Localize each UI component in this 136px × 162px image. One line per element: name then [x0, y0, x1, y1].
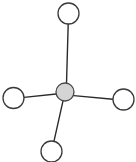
edge-hub-top	[67, 24, 69, 84]
node-hub-center[interactable]	[56, 83, 74, 101]
node-bottom[interactable]	[41, 141, 62, 162]
node-left[interactable]	[3, 88, 24, 109]
star-graph	[0, 0, 136, 162]
edge-layer	[24, 24, 113, 141]
edge-hub-bottom	[54, 101, 63, 141]
node-right[interactable]	[113, 89, 134, 110]
edge-hub-right	[74, 96, 113, 100]
node-top[interactable]	[58, 3, 79, 24]
diagram-canvas	[0, 0, 136, 162]
edge-hub-left	[24, 94, 56, 97]
